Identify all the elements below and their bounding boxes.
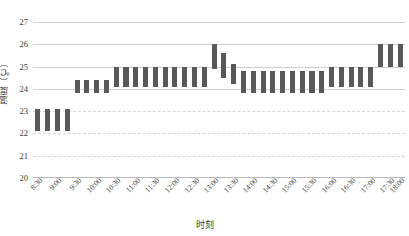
bar [133,67,138,87]
x-axis-tick-label: 11:00 [124,176,142,194]
bar [202,67,207,87]
bar [290,71,295,93]
bar [388,44,393,66]
x-axis-tick-label: 12:00 [163,176,182,195]
bar [280,71,285,93]
bar [182,67,187,87]
x-axis-tick-label: 14:30 [261,176,280,195]
y-axis-tick-label: 22 [20,129,29,138]
x-axis-tick-label: 10:30 [104,176,123,195]
bar [212,44,217,69]
bar [75,80,80,93]
bar [163,67,168,87]
bar [319,71,324,93]
x-axis-tick-label: 9:00 [48,176,64,192]
bar [270,71,275,93]
bar [153,67,158,87]
bar [143,67,148,87]
y-axis-tick-label: 20 [20,174,29,183]
y-axis-tick-label: 24 [20,85,29,94]
bars-layer [33,22,405,178]
bar [45,109,50,131]
x-axis-tick-label: 8:30 [28,176,44,192]
x-axis-tick-label: 14:00 [241,176,260,195]
y-axis-title: 温度（℃） [0,58,13,104]
y-axis-tick-label: 23 [20,107,29,116]
bar [329,67,334,87]
x-axis-tick-label: 13:00 [202,176,221,195]
bar [398,44,403,66]
x-axis-tick-label: 11:30 [143,176,161,194]
bar [84,80,89,93]
bar [65,109,70,131]
bar [349,67,354,87]
bar [94,80,99,93]
bar [221,53,226,78]
x-axis-tick-label: 15:30 [300,176,319,195]
y-axis-tick-label: 21 [20,151,29,160]
bar [104,80,109,93]
x-axis-ticks: 8:309:009:3010:0010:3011:0011:3012:0012:… [33,176,405,206]
bar [368,67,373,87]
x-axis-tick-label: 17:00 [358,176,377,195]
y-axis-tick-label: 26 [20,40,29,49]
bar [339,67,344,87]
y-axis-tick-label: 27 [20,18,29,27]
bar [172,67,177,87]
x-axis-tick-label: 9:30 [67,176,83,192]
x-axis-title: 时刻 [0,218,409,231]
bar [241,71,246,93]
bar [300,71,305,93]
bar [231,64,236,84]
bar [378,44,383,66]
bar [309,71,314,93]
bar [55,109,60,131]
x-axis-tick-label: 16:00 [319,176,338,195]
bar [123,67,128,87]
x-axis-tick-label: 12:30 [182,176,201,195]
x-axis-tick-label: 13:30 [221,176,240,195]
temperature-bar-chart: 2021222324252627 温度（℃） 8:309:009:3010:00… [0,0,409,236]
x-axis-tick-label: 10:00 [84,176,103,195]
bar [358,67,363,87]
bar [251,71,256,93]
bar [261,71,266,93]
bar [114,67,119,87]
x-axis-tick-label: 15:00 [280,176,299,195]
plot-area [33,22,405,178]
bar [192,67,197,87]
bar [35,109,40,131]
y-axis-tick-label: 25 [20,62,29,71]
x-axis-tick-label: 16:30 [339,176,358,195]
